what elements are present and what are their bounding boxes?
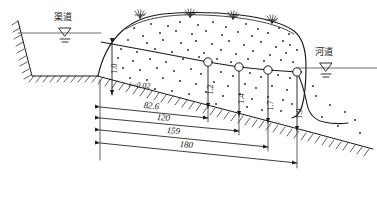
canal-left-hatch (12, 21, 31, 79)
dimension-label-159: 159 (166, 126, 180, 136)
node-circles (204, 58, 301, 76)
canal-water-level-symbol (59, 28, 71, 42)
diagram-svg (0, 0, 377, 211)
river-label: 河道 (315, 48, 333, 57)
dimension-label-180: 180 (179, 140, 193, 150)
extension-lines (100, 80, 297, 168)
depth-label-1-9: 1.9 (295, 108, 304, 119)
canal-bed-hatch (29, 76, 97, 82)
figure-canvas: 渠道 河道 i=0.02 1.0 1.2 1.4 1.7 1.9 82.6 12… (0, 0, 377, 211)
depth-label-1-2: 1.2 (206, 84, 215, 95)
river-bank-curve (297, 72, 348, 124)
depth-label-1-0: 1.0 (110, 63, 119, 74)
dimension-label-120: 120 (156, 113, 170, 123)
depth-label-1-7: 1.7 (266, 100, 275, 111)
ground-line-right (310, 132, 373, 149)
dimension-label-82-6: 82.6 (143, 101, 159, 111)
depth-label-1-4: 1.4 (237, 93, 246, 104)
river-water-level-symbol (320, 63, 332, 77)
slope-label: i=0.02 (128, 81, 150, 90)
canal-label: 渠道 (54, 13, 72, 22)
canal-profile (18, 21, 98, 76)
dimension-lines (100, 107, 297, 163)
